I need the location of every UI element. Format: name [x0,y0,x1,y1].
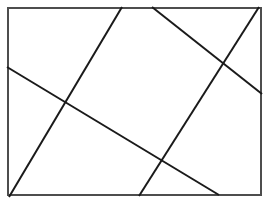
line-figure-diagram [0,0,269,205]
figure-canvas [0,0,269,205]
rectangular-frame [8,8,261,195]
